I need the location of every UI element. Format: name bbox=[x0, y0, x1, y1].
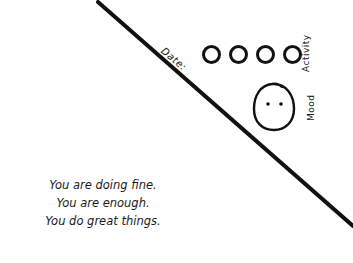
affirmation-message: You are doing fine. You are enough. You … bbox=[28, 176, 178, 230]
affirmation-line-2: You are enough. bbox=[28, 194, 178, 212]
journal-card: Date: Activity Mood You are doing fine. … bbox=[0, 0, 353, 263]
mood-label: Mood bbox=[306, 95, 316, 122]
activity-circle-3[interactable] bbox=[256, 45, 275, 64]
activity-circle-2[interactable] bbox=[229, 45, 248, 64]
activity-label: Activity bbox=[301, 34, 311, 72]
neutral-face-icon[interactable] bbox=[252, 81, 296, 133]
affirmation-line-3: You do great things. bbox=[28, 212, 178, 230]
activity-circles bbox=[202, 45, 302, 64]
affirmation-line-1: You are doing fine. bbox=[28, 176, 178, 194]
activity-circle-1[interactable] bbox=[202, 45, 221, 64]
activity-circle-4[interactable] bbox=[283, 45, 302, 64]
